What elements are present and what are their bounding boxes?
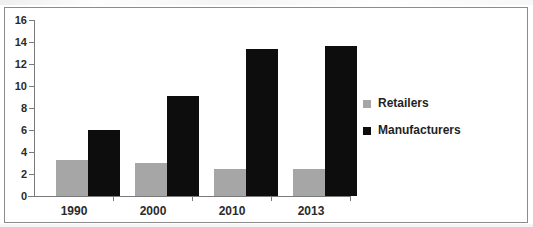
legend-entry-retailers: Retailers <box>363 90 523 117</box>
y-tick-label-14: 14 <box>5 37 27 48</box>
x-tick-label-2010: 2010 <box>197 204 267 218</box>
bar-manufacturers-2013 <box>325 46 357 196</box>
y-axis-tick-labels: 16 14 12 10 8 6 4 2 0 <box>0 0 27 227</box>
legend-entry-manufacturers: Manufacturers <box>363 117 523 144</box>
bar-manufacturers-2000 <box>167 96 199 196</box>
y-tick-label-12: 12 <box>5 59 27 70</box>
y-tick-label-4: 4 <box>5 147 27 158</box>
legend-swatch-icon-retailers <box>363 100 371 108</box>
x-tick-mark-1 <box>113 196 114 201</box>
x-tick-mark-3 <box>271 196 272 201</box>
bar-retailers-2010 <box>214 169 246 197</box>
x-axis-line <box>28 196 350 197</box>
x-tick-label-1990: 1990 <box>39 204 109 218</box>
y-tick-label-0: 0 <box>5 191 27 202</box>
bar-retailers-2013 <box>293 169 325 197</box>
y-tick-label-2: 2 <box>5 169 27 180</box>
y-tick-label-8: 8 <box>5 103 27 114</box>
legend-label-retailers: Retailers <box>378 97 429 110</box>
x-tick-mark-2 <box>192 196 193 201</box>
y-tick-label-16: 16 <box>5 15 27 26</box>
bar-manufacturers-1990 <box>88 130 120 196</box>
y-tick-label-10: 10 <box>5 81 27 92</box>
x-tick-label-2013: 2013 <box>276 204 346 218</box>
x-tick-label-2000: 2000 <box>118 204 188 218</box>
x-tick-mark-4 <box>350 196 351 201</box>
chart-legend: Retailers Manufacturers <box>363 90 523 144</box>
bar-retailers-1990 <box>56 160 88 196</box>
bars-layer <box>35 20 350 196</box>
bar-retailers-2000 <box>135 163 167 196</box>
bar-chart-figure: 16 14 12 10 8 6 4 2 0 1990 2000 2010 201… <box>0 0 533 227</box>
y-tick-label-6: 6 <box>5 125 27 136</box>
legend-label-manufacturers: Manufacturers <box>378 124 461 137</box>
legend-swatch-icon-manufacturers <box>363 127 371 135</box>
bar-manufacturers-2010 <box>246 49 278 196</box>
scan-artifact-bottom <box>0 224 533 227</box>
scan-artifact-top <box>0 0 533 5</box>
